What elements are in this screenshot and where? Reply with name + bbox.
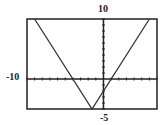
ymax-label: 10 (98, 3, 108, 14)
axes (27, 19, 157, 109)
abs-value-curve (35, 19, 150, 109)
ymin-label: -5 (100, 112, 108, 123)
graph-window (0, 0, 162, 125)
plot-frame (27, 19, 157, 109)
xmin-label: -10 (6, 71, 19, 82)
